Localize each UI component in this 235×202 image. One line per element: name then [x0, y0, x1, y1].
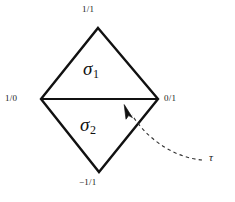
tau-annotation-curve — [132, 115, 202, 160]
sigma-2-symbol: σ — [80, 114, 89, 135]
diagram-canvas — [0, 0, 235, 202]
sigma-1-subscript: 1 — [93, 67, 99, 81]
sigma-1-symbol: σ — [83, 58, 92, 79]
vertex-label-top: 1/1 — [82, 4, 94, 14]
sigma-2-subscript: 2 — [90, 123, 96, 137]
upper-triangle-region — [41, 28, 158, 99]
vertex-label-bottom: −1/1 — [79, 177, 96, 187]
vertex-label-right: 0/1 — [164, 93, 176, 103]
lower-triangle-region — [41, 99, 158, 172]
edge-label-tau: τ — [209, 151, 213, 163]
cell-label-sigma-2: σ2 — [80, 114, 96, 138]
farey-diamond-figure: 1/1 1/0 0/1 −1/1 σ1 σ2 τ — [0, 0, 235, 202]
cell-label-sigma-1: σ1 — [83, 58, 99, 82]
vertex-label-left: 1/0 — [5, 93, 17, 103]
